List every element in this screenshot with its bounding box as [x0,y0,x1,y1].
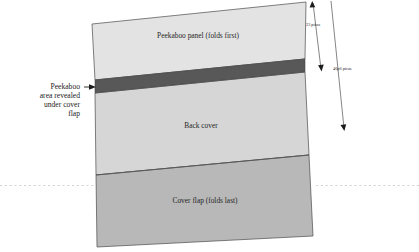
cover-flap-label: Cover flap (folds last) [172,196,238,205]
dimension-23-picas-label: 23 picas [306,22,321,27]
dimension-23-picas-arrowhead-top [310,1,316,7]
back-cover-label: Back cover [184,121,218,130]
dimension-23-picas-line [313,3,321,69]
callout-line-4: flap [68,109,80,118]
peekaboo-panel-label: Peekaboo panel (folds first) [157,31,239,40]
figure-canvas: Peekaboo panel (folds first) Back cover … [0,0,419,252]
fold-diagram: Peekaboo panel (folds first) Back cover … [0,0,419,252]
callout-line-3: under cover [44,100,81,109]
callout-line-1: Peekaboo [50,82,80,91]
dimension-46p6-picas-line [331,1,344,128]
dimension-46p6-picas-label: 46p6 picas [333,66,352,71]
dimension-46p6-picas-arrowhead-bottom [341,124,347,131]
callout-line-2: area revealed [40,91,80,100]
dimension-23-picas-arrowhead-bottom [318,65,324,72]
